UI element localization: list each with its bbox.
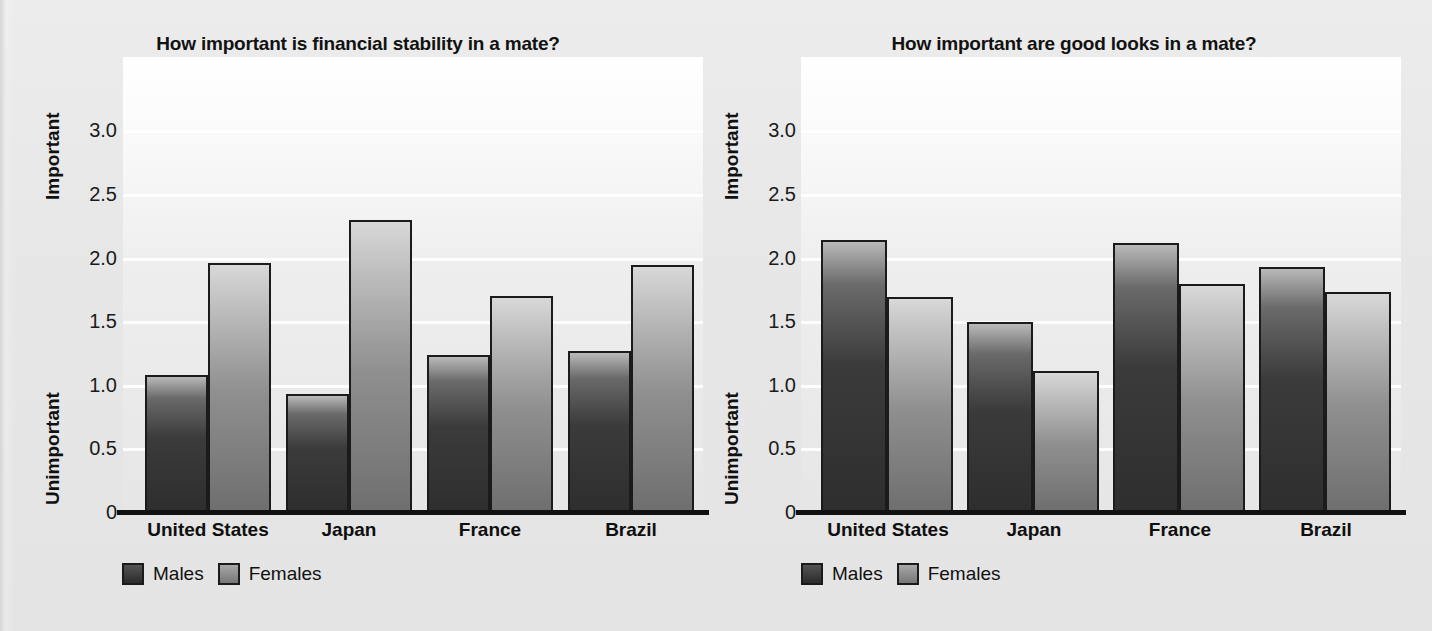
y-tick-3.0-right: 3.0 xyxy=(750,119,796,142)
bar-female-japan-left[interactable] xyxy=(349,220,412,512)
bars-left xyxy=(123,57,703,512)
y-tick-1.5-left: 1.5 xyxy=(71,310,117,333)
y-tick-1.5-right: 1.5 xyxy=(750,310,796,333)
bar-female-united-states-left[interactable] xyxy=(208,263,271,512)
x-label-united-states-left: United States xyxy=(147,519,268,541)
bar-male-france-right[interactable] xyxy=(1113,243,1179,512)
y-axis-label-unimportant-left: Unimportant xyxy=(42,392,64,505)
legend-label-females-right: Females xyxy=(928,563,1001,585)
bar-female-brazil-right[interactable] xyxy=(1325,292,1391,512)
y-axis-label-important-right: Important xyxy=(721,112,743,200)
y-tick-0-right: 0 xyxy=(750,501,796,524)
bar-female-japan-right[interactable] xyxy=(1033,371,1099,512)
x-label-japan-right: Japan xyxy=(1007,519,1062,541)
y-tick-1.0-left: 1.0 xyxy=(71,374,117,397)
chart-panel-financial-stability: How important is financial stability in … xyxy=(0,0,716,631)
legend-swatch-females-left xyxy=(218,563,240,585)
y-axis-ticks-left: 3.0 2.5 2.0 1.5 1.0 0.5 0 xyxy=(57,0,117,631)
legend-item-males-left[interactable]: Males xyxy=(122,563,204,585)
legend-label-females-left: Females xyxy=(249,563,322,585)
y-tick-2.5-right: 2.5 xyxy=(750,183,796,206)
y-tick-2.0-left: 2.0 xyxy=(71,247,117,270)
y-axis-ticks-right: 3.0 2.5 2.0 1.5 1.0 0.5 0 xyxy=(736,0,796,631)
legend-item-females-right[interactable]: Females xyxy=(897,563,1001,585)
bar-female-united-states-right[interactable] xyxy=(887,297,953,512)
y-tick-2.0-right: 2.0 xyxy=(750,247,796,270)
x-label-brazil-right: Brazil xyxy=(1300,519,1352,541)
chart-pair: How important is financial stability in … xyxy=(0,0,1432,631)
x-axis-line-left xyxy=(117,510,709,515)
legend-swatch-males-left xyxy=(122,563,144,585)
bar-male-brazil-left[interactable] xyxy=(568,351,631,512)
bar-male-brazil-right[interactable] xyxy=(1259,267,1325,512)
bar-male-japan-left[interactable] xyxy=(286,394,349,512)
bar-male-united-states-right[interactable] xyxy=(821,240,887,512)
x-label-japan-left: Japan xyxy=(322,519,377,541)
legend-item-males-right[interactable]: Males xyxy=(801,563,883,585)
y-tick-0-left: 0 xyxy=(71,501,117,524)
bar-male-japan-right[interactable] xyxy=(967,322,1033,512)
y-tick-0.5-left: 0.5 xyxy=(71,437,117,460)
bar-female-brazil-left[interactable] xyxy=(631,265,694,512)
bars-right xyxy=(801,57,1401,512)
y-tick-2.5-left: 2.5 xyxy=(71,183,117,206)
bar-male-united-states-left[interactable] xyxy=(145,375,208,512)
chart-panel-good-looks: How important are good looks in a mate? xyxy=(716,0,1432,631)
plot-area-left xyxy=(123,57,703,512)
y-tick-3.0-left: 3.0 xyxy=(71,119,117,142)
x-label-france-left: France xyxy=(459,519,521,541)
chart-title-good-looks: How important are good looks in a mate? xyxy=(716,33,1432,55)
bar-female-france-left[interactable] xyxy=(490,296,553,512)
legend-swatch-females-right xyxy=(897,563,919,585)
legend-label-males-left: Males xyxy=(153,563,204,585)
y-axis-label-unimportant-right: Unimportant xyxy=(721,392,743,505)
plot-area-right xyxy=(801,57,1401,512)
y-tick-1.0-right: 1.0 xyxy=(750,374,796,397)
bar-male-france-left[interactable] xyxy=(427,355,490,512)
legend-label-males-right: Males xyxy=(832,563,883,585)
x-label-france-right: France xyxy=(1149,519,1211,541)
legend-right: Males Females xyxy=(801,563,1001,585)
legend-swatch-males-right xyxy=(801,563,823,585)
x-label-brazil-left: Brazil xyxy=(605,519,657,541)
bar-female-france-right[interactable] xyxy=(1179,284,1245,512)
y-axis-label-important-left: Important xyxy=(42,112,64,200)
y-tick-0.5-right: 0.5 xyxy=(750,437,796,460)
legend-left: Males Females xyxy=(122,563,322,585)
x-axis-line-right xyxy=(796,510,1406,515)
legend-item-females-left[interactable]: Females xyxy=(218,563,322,585)
x-label-united-states-right: United States xyxy=(827,519,948,541)
